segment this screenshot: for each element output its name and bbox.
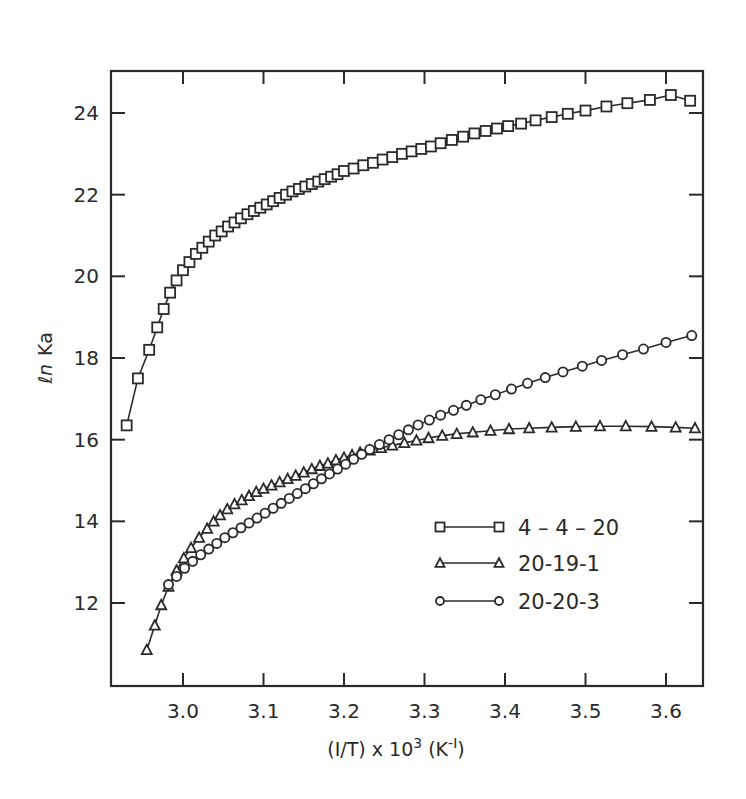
x-tick-label: 3.5 (570, 699, 602, 723)
triangle-marker-icon (156, 600, 166, 609)
y-tick-label: 14 (74, 509, 99, 533)
y-axis-title-k: Ka (34, 332, 56, 356)
series-line (169, 336, 692, 585)
legend-item-square: 4 – 4 – 20 (436, 516, 620, 540)
circle-marker-icon (462, 401, 471, 410)
circle-marker-icon (618, 350, 627, 359)
circle-marker-icon (394, 430, 403, 439)
square-marker-icon (516, 119, 526, 129)
triangle-marker-icon (468, 427, 478, 436)
square-marker-icon (436, 138, 446, 148)
square-marker-icon (407, 146, 417, 156)
y-tick-label: 24 (74, 101, 99, 125)
legend: 4 – 4 – 2020-19-120-20-3 (436, 516, 620, 614)
circle-marker-icon (404, 425, 413, 434)
series-line (127, 95, 690, 425)
square-marker-icon (495, 523, 504, 532)
square-marker-icon (458, 132, 468, 142)
circle-marker-icon (687, 331, 696, 340)
circle-marker-icon (639, 344, 648, 353)
square-marker-icon (666, 90, 676, 100)
square-marker-icon (481, 126, 491, 136)
x-tick-label: 3.4 (489, 699, 521, 723)
x-tick-label: 3.2 (328, 699, 360, 723)
triangle-marker-icon (671, 422, 681, 431)
triangle-marker-icon (424, 433, 434, 442)
square-marker-icon (339, 166, 349, 176)
square-marker-icon (601, 101, 611, 111)
y-tick-label: 20 (74, 264, 99, 288)
circle-marker-icon (425, 415, 434, 424)
legend-label: 20-20-3 (518, 590, 600, 614)
square-marker-icon (436, 523, 445, 532)
square-marker-icon (387, 152, 397, 162)
y-tick-label: 22 (74, 183, 99, 207)
circle-marker-icon (507, 384, 516, 393)
square-marker-icon (531, 115, 541, 125)
square-marker-icon (685, 96, 695, 106)
x-axis-title: (I/T) x 103 (K-I) (327, 735, 464, 760)
x-tick-label: 3.1 (248, 699, 280, 723)
legend-label: 20-19-1 (518, 552, 600, 576)
y-axis-title: ℓnKa (34, 332, 56, 385)
circle-marker-icon (164, 580, 173, 589)
triangle-marker-icon (142, 645, 152, 654)
x-axis-ticks: 3.03.13.23.33.43.53.6 (167, 71, 682, 723)
series-layer (122, 90, 700, 654)
square-marker-icon (152, 322, 162, 332)
circle-marker-icon (365, 445, 374, 454)
circle-marker-icon (413, 420, 422, 429)
circle-marker-icon (597, 356, 606, 365)
triangle-marker-icon (647, 421, 657, 430)
triangle-marker-icon (621, 421, 631, 430)
triangle-marker-icon (150, 620, 160, 629)
x-tick-label: 3.0 (167, 699, 199, 723)
triangle-marker-icon (495, 558, 504, 567)
circle-marker-icon (491, 390, 500, 399)
triangle-marker-icon (595, 421, 605, 430)
series-4-4-20 (122, 90, 696, 430)
triangle-marker-icon (411, 435, 421, 444)
chart-figure: 3.03.13.23.33.43.53.6 12141618202224 4 –… (0, 0, 746, 799)
legend-item-triangle: 20-19-1 (436, 552, 600, 576)
square-marker-icon (547, 112, 557, 122)
x-axis-title-prefix: (I/T) x 10 (327, 738, 413, 760)
circle-marker-icon (436, 597, 444, 605)
square-marker-icon (447, 135, 457, 145)
triangle-marker-icon (690, 423, 700, 432)
circle-marker-icon (578, 362, 587, 371)
circle-marker-icon (172, 572, 181, 581)
x-tick-label: 3.6 (650, 699, 682, 723)
square-marker-icon (397, 149, 407, 159)
y-tick-label: 16 (74, 428, 99, 452)
series-20-20-3 (164, 331, 696, 589)
x-axis-title-unit: (K (422, 738, 448, 760)
triangle-marker-icon (437, 430, 447, 439)
x-tick-label: 3.3 (409, 699, 441, 723)
circle-marker-icon (495, 597, 503, 605)
triangle-marker-icon (547, 422, 557, 431)
circle-marker-icon (661, 338, 670, 347)
plot-frame (111, 71, 703, 686)
square-marker-icon (368, 158, 378, 168)
plot-border (111, 71, 703, 686)
square-marker-icon (122, 420, 132, 430)
triangle-marker-icon (504, 424, 514, 433)
square-marker-icon (416, 144, 426, 154)
square-marker-icon (358, 160, 368, 170)
square-marker-icon (622, 98, 632, 108)
circle-marker-icon (476, 395, 485, 404)
circle-marker-icon (541, 373, 550, 382)
legend-item-circle: 20-20-3 (436, 590, 600, 614)
square-marker-icon (469, 128, 479, 138)
circle-marker-icon (180, 564, 189, 573)
triangle-marker-icon (571, 421, 581, 430)
circle-marker-icon (375, 440, 384, 449)
circle-marker-icon (188, 557, 197, 566)
circle-marker-icon (523, 379, 532, 388)
square-marker-icon (133, 373, 143, 383)
square-marker-icon (349, 164, 359, 174)
legend-label: 4 – 4 – 20 (518, 516, 619, 540)
x-axis-title-exponent: 3 (413, 735, 422, 751)
square-marker-icon (165, 288, 175, 298)
